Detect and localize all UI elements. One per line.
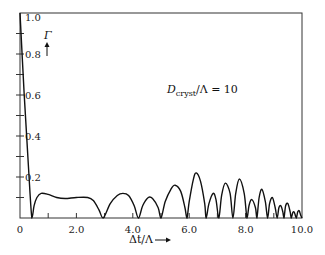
y-tick-label: 0.2 xyxy=(25,172,41,183)
series-line-gamma xyxy=(20,13,302,218)
chart: 0.20.40.60.81.002.04.06.08.010.0 Γ Dcrys… xyxy=(0,0,325,255)
y-axis-label: Γ xyxy=(43,29,52,56)
annotation-subscript: cryst xyxy=(176,89,197,98)
annotation: Dcryst/Λ = 10 xyxy=(166,83,238,98)
y-axis-label-text: Γ xyxy=(43,29,52,42)
x-axis-label: Δt/Λ xyxy=(129,233,171,246)
x-tick-label: 2.0 xyxy=(68,224,84,235)
x-tick-label: 6.0 xyxy=(181,224,197,235)
annotation-prefix: D xyxy=(166,83,176,96)
y-tick-label: 0.6 xyxy=(25,90,41,101)
y-tick-label: 0.8 xyxy=(25,49,41,60)
annotation-suffix: /Λ = 10 xyxy=(196,83,238,96)
plot-frame xyxy=(20,13,302,218)
axis-ticks xyxy=(16,34,274,219)
x-tick-label: 0 xyxy=(17,224,23,235)
x-tick-label: 8.0 xyxy=(238,224,254,235)
x-axis-label-text: Δt/Λ xyxy=(129,233,154,246)
y-tick-label: 1.0 xyxy=(25,12,41,23)
up-arrowhead-icon xyxy=(45,42,50,47)
x-tick-label: 10.0 xyxy=(291,224,313,235)
right-arrowhead-icon xyxy=(166,238,171,243)
